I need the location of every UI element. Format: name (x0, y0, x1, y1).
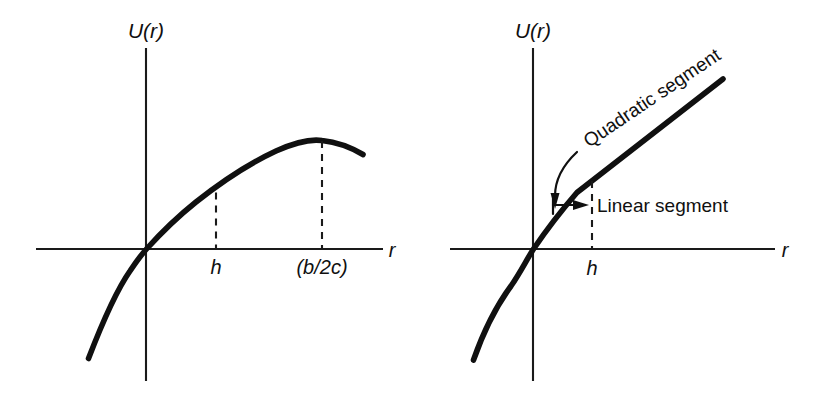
right-plot-svg: h U(r) r Quadratic segment Linear segmen… (409, 0, 817, 399)
figure-container: h (b/2c) U(r) r h U(r) r (0, 0, 817, 399)
left-tick-label-h: h (210, 256, 221, 278)
left-plot-svg: h (b/2c) U(r) r (0, 0, 409, 399)
chart-panel-right: h U(r) r Quadratic segment Linear segmen… (409, 0, 817, 399)
left-x-axis-label: r (389, 239, 397, 261)
annotation-arrow-linear-head (573, 200, 589, 210)
annotation-arrow-quadratic-head (551, 193, 560, 209)
left-tick-label-b2c: (b/2c) (296, 256, 347, 278)
right-x-axis-label: r (782, 239, 790, 261)
left-y-axis-label: U(r) (128, 19, 164, 42)
right-y-axis-label: U(r) (515, 19, 551, 42)
annotation-arrow-quadratic-shaft (555, 152, 577, 196)
annotation-label-linear: Linear segment (597, 195, 729, 216)
right-tick-label-h: h (586, 257, 597, 279)
chart-panel-left: h (b/2c) U(r) r (0, 0, 409, 399)
